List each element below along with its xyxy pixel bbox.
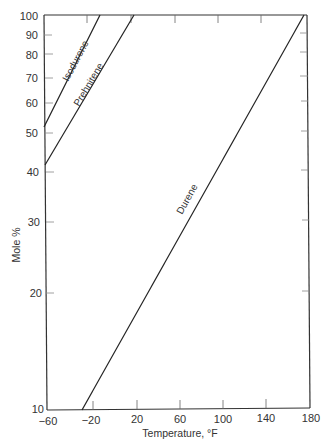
y-ticks <box>44 33 309 293</box>
svg-text:100: 100 <box>20 10 38 22</box>
durene-label: Durene <box>174 182 200 216</box>
svg-text:−20: −20 <box>82 414 101 426</box>
y-axis-title: Mole % <box>10 227 22 262</box>
svg-text:20: 20 <box>131 413 143 425</box>
durene-line <box>82 15 304 410</box>
y-tick-labels: 100 90 80 70 60 50 40 30 20 10 <box>20 10 44 415</box>
svg-text:60: 60 <box>26 97 38 109</box>
svg-text:100: 100 <box>214 413 232 425</box>
phase-chart: 100 90 80 70 60 50 40 30 20 10 −60 −20 2… <box>0 0 330 446</box>
y-axis-line <box>44 15 47 410</box>
right-axis-line <box>307 15 310 408</box>
svg-text:90: 90 <box>26 29 38 41</box>
svg-text:180: 180 <box>302 412 320 424</box>
svg-text:20: 20 <box>30 287 42 299</box>
svg-text:30: 30 <box>28 216 40 228</box>
svg-text:−60: −60 <box>39 415 58 427</box>
x-axis-title: Temperature, °F <box>142 427 217 439</box>
svg-text:10: 10 <box>32 403 44 415</box>
svg-text:140: 140 <box>257 412 275 424</box>
series-lines <box>44 15 304 410</box>
svg-text:80: 80 <box>26 49 38 61</box>
svg-text:60: 60 <box>174 413 186 425</box>
svg-text:50: 50 <box>26 127 38 139</box>
svg-text:40: 40 <box>27 166 39 178</box>
svg-text:70: 70 <box>26 72 38 84</box>
x-tick-labels: −60 −20 20 60 100 140 180 <box>39 412 321 427</box>
x-axis-line <box>47 408 310 410</box>
